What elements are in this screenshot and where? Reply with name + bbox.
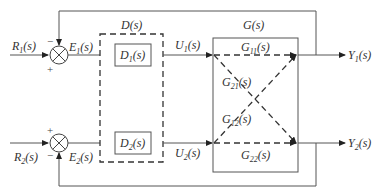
sum2-plus-sign: + — [47, 124, 53, 136]
y1-label: Y1(s) — [348, 48, 371, 64]
u1-label: U1(s) — [175, 38, 200, 54]
r2-label: R2(s) — [13, 150, 38, 166]
summing-junction-1 — [50, 46, 68, 64]
u2-label: U2(s) — [175, 146, 200, 162]
g21-label: G21(s) — [222, 75, 251, 91]
block-diagram: − + + − R1(s) R2(s) E1(s) E2(s) D(s) D1(… — [0, 0, 378, 194]
sum1-minus-sign: − — [47, 35, 53, 47]
d2-label: D2(s) — [119, 136, 145, 152]
plant-label: G(s) — [243, 18, 264, 32]
y2-label: Y2(s) — [348, 136, 371, 152]
e2-label: E2(s) — [68, 150, 93, 166]
e1-label: E1(s) — [68, 40, 93, 56]
r1-label: R1(s) — [11, 39, 36, 55]
plant-box — [213, 38, 298, 172]
sum2-minus-sign: − — [47, 149, 53, 161]
g22-label: G22(s) — [241, 148, 270, 164]
d1-label: D1(s) — [119, 48, 145, 64]
g12-label: G12(s) — [222, 112, 251, 128]
controller-label: D(s) — [120, 18, 142, 32]
sum1-plus-sign: + — [47, 63, 53, 75]
g11-label: G11(s) — [241, 40, 270, 56]
